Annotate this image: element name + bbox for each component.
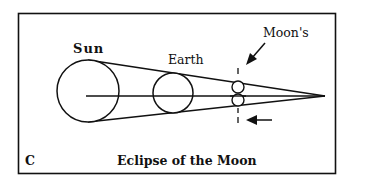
arrow-down-left-icon <box>246 43 265 65</box>
eclipse-diagram: Sun Earth Moon's C Eclipse of the Moon <box>0 0 368 194</box>
upper-tangent-line <box>88 60 325 96</box>
earth-circle <box>153 73 193 113</box>
moon-label: Moon's <box>263 25 309 40</box>
arrow-left-icon <box>246 115 272 125</box>
diagram-title: Eclipse of the Moon <box>117 153 257 168</box>
lower-tangent-line <box>88 96 325 122</box>
earth-label: Earth <box>168 52 204 67</box>
sun-circle <box>57 60 119 122</box>
sun-label: Sun <box>73 41 104 56</box>
panel-letter: C <box>25 153 35 168</box>
moon-circle-upper <box>232 81 244 93</box>
